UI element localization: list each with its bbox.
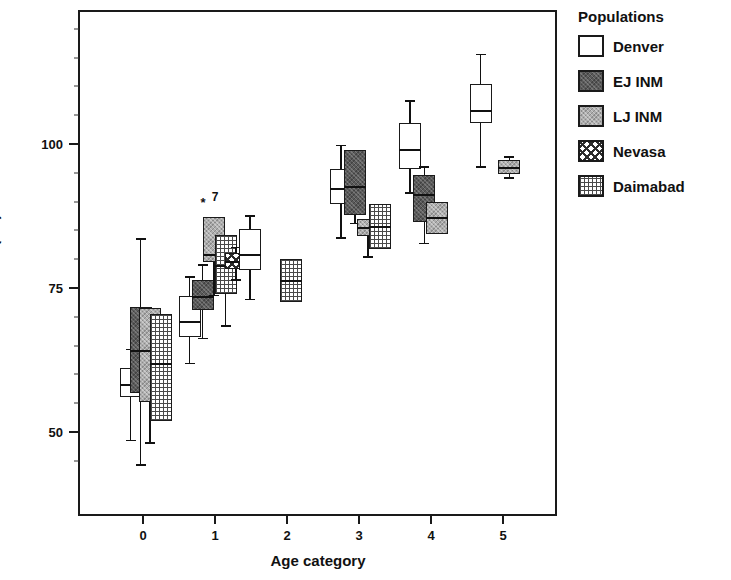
y-minor-tick (74, 345, 79, 346)
y-minor-tick (74, 86, 79, 87)
legend-swatch-icon (578, 35, 604, 57)
x-tick-label: 4 (416, 528, 446, 543)
legend-item-daimabad[interactable]: Daimabad (578, 173, 728, 199)
whisker-cap-lower (504, 177, 514, 179)
x-tick-mark (214, 515, 216, 524)
legend-items: DenverEJ INMLJ INMNevasaDaimabad (578, 33, 728, 199)
legend-item-nevasa[interactable]: Nevasa (578, 138, 728, 164)
y-minor-tick (74, 374, 79, 375)
y-minor-tick (74, 460, 79, 461)
y-tick-label: 75 (23, 281, 63, 296)
y-tick-mark (69, 287, 80, 289)
y-minor-tick (74, 201, 79, 202)
x-tick-mark (430, 515, 432, 524)
chart-root: *7 Stature (cm) Age category 50751000123… (0, 0, 731, 580)
x-tick-label: 5 (488, 528, 518, 543)
y-axis-title: Stature (cm) (0, 214, 1, 302)
legend-item-label: Denver (613, 38, 664, 55)
y-minor-tick (74, 172, 79, 173)
y-minor-tick (74, 403, 79, 404)
x-tick-mark (358, 515, 360, 524)
legend-swatch-icon (578, 70, 604, 92)
y-tick-label: 50 (23, 425, 63, 440)
y-tick-label: 100 (23, 137, 63, 152)
x-tick-label: 0 (128, 528, 158, 543)
y-minor-tick (74, 28, 79, 29)
y-tick-mark (69, 431, 80, 433)
legend: Populations DenverEJ INMLJ INMNevasaDaim… (578, 8, 728, 208)
legend-swatch-icon (578, 175, 604, 197)
legend-item-label: Nevasa (613, 143, 666, 160)
x-tick-mark (142, 515, 144, 524)
legend-item-label: EJ INM (613, 73, 663, 90)
median-line (498, 167, 520, 169)
y-minor-tick (74, 57, 79, 58)
legend-item-ej-inm[interactable]: EJ INM (578, 68, 728, 94)
legend-swatch-icon (578, 105, 604, 127)
y-minor-tick (74, 230, 79, 231)
whisker-cap-upper (504, 156, 514, 158)
x-tick-label: 3 (344, 528, 374, 543)
legend-item-label: Daimabad (613, 178, 685, 195)
x-tick-label: 2 (272, 528, 302, 543)
x-tick-label: 1 (200, 528, 230, 543)
plot-area: *7 (78, 10, 557, 516)
legend-item-denver[interactable]: Denver (578, 33, 728, 59)
y-tick-mark (69, 143, 80, 145)
boxplot-canvas: *7 (80, 12, 555, 514)
x-tick-mark (502, 515, 504, 524)
y-minor-tick (74, 316, 79, 317)
legend-item-label: LJ INM (613, 108, 662, 125)
x-axis-title: Age category (270, 552, 365, 569)
legend-title: Populations (578, 8, 728, 25)
legend-item-lj-inm[interactable]: LJ INM (578, 103, 728, 129)
boxplot-lj-inm-age-5[interactable] (80, 12, 555, 514)
y-minor-tick (74, 115, 79, 116)
x-tick-mark (286, 515, 288, 524)
y-minor-tick (74, 259, 79, 260)
legend-swatch-icon (578, 140, 604, 162)
